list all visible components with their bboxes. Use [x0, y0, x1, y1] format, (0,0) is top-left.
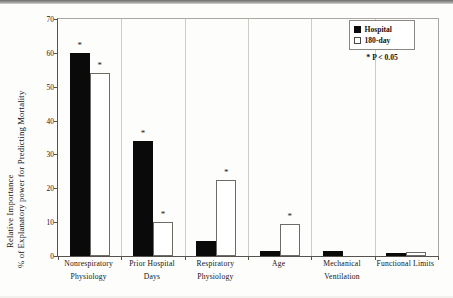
x-axis-category-label-line: Ventilation — [304, 271, 379, 284]
bar-hospital — [133, 141, 153, 256]
bar-hospital — [386, 253, 406, 256]
bar-hospital — [70, 53, 90, 256]
significance-star-icon: * — [287, 212, 292, 221]
bar-hospital — [323, 251, 343, 256]
bar-group: ** — [121, 19, 184, 256]
bar-group: * — [248, 19, 311, 256]
significance-star-icon: * — [97, 61, 102, 70]
significance-star-icon: * — [161, 210, 166, 219]
bar-180-day — [216, 180, 236, 256]
legend-swatch-open-square-icon — [354, 37, 361, 44]
significance-star-icon: * — [141, 129, 146, 138]
bar-group: * — [185, 19, 248, 256]
bar-180-day — [280, 224, 300, 256]
significance-note-text: P < 0.05 — [372, 53, 398, 62]
x-axis-category-label: Functional Limits — [368, 258, 443, 271]
bar-180-day — [406, 252, 426, 256]
legend-item-180-day: 180-day — [354, 35, 410, 46]
significance-star-icon: * — [224, 168, 229, 177]
x-axis-category-labels: NonrespiratoryPhysiologyPrior HospitalDa… — [57, 258, 437, 296]
x-axis-category-label-line: Functional Limits — [368, 258, 443, 271]
significance-note: * P < 0.05 — [349, 53, 415, 62]
scan-artifact-top-band — [0, 0, 453, 4]
x-axis-category-label-line: Physiology — [178, 271, 253, 284]
y-axis-title-line-2: % of Explanatory power for Predicting Mo… — [16, 12, 28, 268]
bar-hospital — [196, 241, 216, 256]
significance-star-icon: * — [77, 41, 82, 50]
legend-box: Hospital 180-day — [349, 20, 415, 50]
significance-star-icon: * — [366, 53, 370, 62]
legend-label-180-day: 180-day — [365, 36, 391, 45]
legend: Hospital 180-day * P < 0.05 — [349, 20, 415, 62]
chart-figure: Relative Importance % of Explanatory pow… — [0, 0, 453, 298]
bar-group: ** — [58, 19, 121, 256]
bar-180-day — [153, 222, 173, 256]
bar-hospital — [260, 251, 280, 256]
legend-item-hospital: Hospital — [354, 24, 410, 35]
bar-180-day — [90, 73, 110, 256]
legend-label-hospital: Hospital — [365, 25, 392, 34]
legend-swatch-filled-square-icon — [354, 26, 361, 33]
